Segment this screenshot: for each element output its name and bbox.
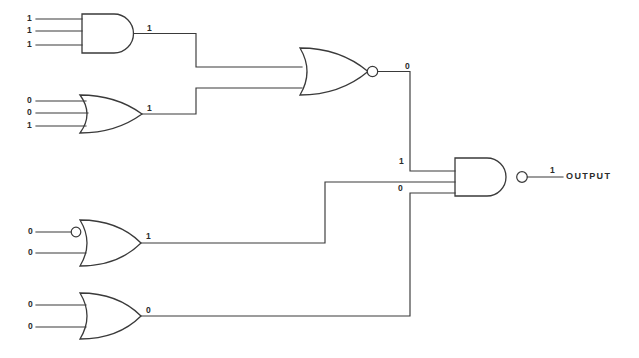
label-or4-output: 1 — [146, 232, 151, 241]
nand6-inversion-bubble — [517, 172, 528, 183]
label-nand6-output: 1 — [550, 166, 555, 175]
or4-input-inversion-bubble — [71, 227, 81, 237]
wire-or4-to-nand6 — [141, 182, 455, 243]
wire-or5-to-nand6 — [141, 193, 455, 316]
label-or2-input-a: 0 — [27, 96, 32, 105]
label-and1-output: 1 — [147, 24, 152, 33]
logic-circuit-diagram: 1 1 1 1 0 0 1 1 0 1 0 0 0 1 0 0 0 1 OUTP… — [0, 0, 639, 358]
gate-or-inverted-4 — [71, 220, 141, 266]
nor3-inversion-bubble — [367, 66, 377, 76]
gate-nand-6 — [455, 158, 527, 196]
label-or2-output: 1 — [147, 104, 152, 113]
wire-and1-to-nor3 — [134, 34, 303, 68]
circuit-svg — [0, 0, 639, 358]
output-text-label: OUTPUT — [566, 172, 611, 181]
label-and1-input-a: 1 — [27, 14, 32, 23]
label-or5-input-a: 0 — [28, 300, 33, 309]
label-and1-input-b: 1 — [27, 26, 32, 35]
label-or5-input-b: 0 — [28, 322, 33, 331]
label-or5-output: 0 — [146, 306, 151, 315]
gate-and-1 — [82, 14, 134, 53]
label-or2-input-c: 1 — [27, 121, 32, 130]
label-and1-input-c: 1 — [27, 40, 32, 49]
label-or2-input-b: 0 — [27, 108, 32, 117]
label-nand6-input-bottom: 0 — [398, 184, 403, 193]
gate-nor-3 — [300, 48, 378, 95]
gate-or-2 — [80, 95, 142, 133]
label-nor3-output: 0 — [405, 62, 410, 71]
wire-nor3-to-nand6 — [378, 72, 455, 172]
label-or4-input-a: 0 — [28, 227, 33, 236]
wire-or2-to-nor3 — [142, 88, 302, 114]
label-or4-input-b: 0 — [28, 248, 33, 257]
gate-or-5 — [80, 293, 141, 339]
label-nand6-input-top: 1 — [399, 157, 404, 166]
